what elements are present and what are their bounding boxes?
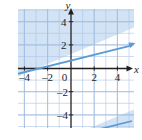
y-tick-label-neg4: –4 xyxy=(56,109,69,121)
x-axis-label: x xyxy=(133,63,139,75)
graph-figure: –4 –2 0 2 4 4 2 –2 –4 x y xyxy=(0,0,142,140)
x-tick-label-2: 2 xyxy=(91,71,97,83)
coordinate-plane-svg: –4 –2 0 2 4 4 2 –2 –4 x y xyxy=(0,0,142,140)
y-tick-label-2: 2 xyxy=(61,39,67,51)
y-axis-label: y xyxy=(65,0,71,11)
origin-label: 0 xyxy=(62,71,68,83)
x-tick-label-neg4: –4 xyxy=(18,71,31,83)
x-tick-label-neg2: –2 xyxy=(41,71,53,83)
y-tick-label-neg2: –2 xyxy=(56,86,68,98)
y-tick-label-4: 4 xyxy=(61,16,67,28)
x-tick-label-4: 4 xyxy=(115,71,121,83)
